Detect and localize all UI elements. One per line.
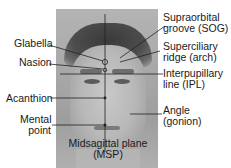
nasion-text: Nasion [19, 56, 52, 68]
right-eye [114, 79, 130, 84]
superciliary-text-2: ridge (arch) [163, 52, 218, 63]
gonion-text-2: (gonion) [163, 116, 202, 127]
right-eyebrow [112, 69, 134, 74]
label-msp: Midsagittal plane (MSP) [60, 138, 156, 160]
label-superciliary: Superciliary ridge (arch) [163, 41, 218, 63]
msp-text-2: (MSP) [60, 149, 156, 160]
label-mental-point: Mental point [20, 114, 51, 136]
glabella-text: Glabella [14, 37, 53, 49]
label-glabella: Glabella [14, 38, 53, 48]
label-gonion: Angle (gonion) [163, 105, 202, 127]
label-acanthion: Acanthion [6, 93, 53, 103]
left-eyebrow [80, 69, 102, 74]
label-sog: Supraorbital groove (SOG) [163, 12, 228, 34]
acanthion-text: Acanthion [6, 92, 53, 104]
label-nasion: Nasion [19, 57, 52, 67]
ipl-text-2: line (IPL) [163, 79, 223, 90]
left-eye [84, 79, 100, 84]
mouth [94, 126, 120, 130]
mental-text-2: point [20, 125, 51, 136]
label-ipl: Interpupillary line (IPL) [163, 68, 223, 90]
sog-text-2: groove (SOG) [163, 23, 228, 34]
